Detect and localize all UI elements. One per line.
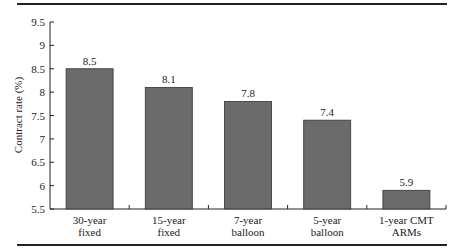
- x-category-label: 30-year: [73, 214, 107, 226]
- bars: 8.58.17.87.45.9: [66, 55, 430, 209]
- y-tick-label: 9: [40, 39, 46, 51]
- bar-value-label: 7.4: [320, 106, 334, 118]
- y-tick-label: 8: [40, 86, 46, 98]
- bar: [145, 87, 192, 209]
- bar-value-label: 7.8: [241, 87, 255, 99]
- x-axis: 30-yearfixed15-yearfixed7-yearballoon5-y…: [50, 205, 446, 238]
- x-category-label: 1-year CMT: [379, 214, 434, 226]
- y-tick-label: 5.5: [31, 203, 45, 215]
- bar-value-label: 5.9: [400, 176, 414, 188]
- bar: [66, 69, 113, 209]
- x-category-label: 15-year: [152, 214, 186, 226]
- y-tick-label: 6: [40, 180, 46, 192]
- x-category-label: balloon: [232, 226, 265, 238]
- bar: [304, 120, 351, 209]
- y-tick-label: 7: [40, 133, 46, 145]
- x-category-label: ARMs: [392, 226, 421, 238]
- bar-value-label: 8.1: [162, 73, 176, 85]
- x-category-label: fixed: [157, 226, 180, 238]
- bar-chart: Contract rate (%) 5.566.577.588.599.5 30…: [0, 0, 457, 252]
- x-category-label: fixed: [78, 226, 101, 238]
- x-category-label: 7-year: [234, 214, 262, 226]
- bar: [383, 190, 430, 209]
- bar: [225, 101, 272, 209]
- y-tick-label: 9.5: [31, 16, 45, 28]
- x-category-label: 5-year: [313, 214, 341, 226]
- y-axis: 5.566.577.588.599.5: [31, 16, 54, 215]
- x-category-label: balloon: [311, 226, 344, 238]
- bar-value-label: 8.5: [83, 55, 97, 67]
- y-tick-label: 8.5: [31, 63, 45, 75]
- y-tick-label: 7.5: [31, 110, 45, 122]
- y-tick-label: 6.5: [31, 156, 45, 168]
- y-axis-label: Contract rate (%): [12, 76, 25, 153]
